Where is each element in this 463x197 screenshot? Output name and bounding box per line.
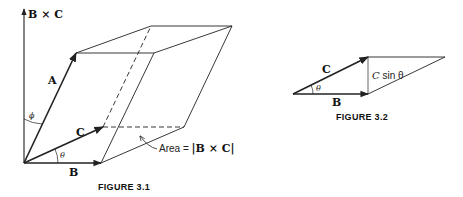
figure-3-2-labels: C B θ C sin θ FIGURE 3.2 xyxy=(316,63,404,122)
area-expr: |B × C| xyxy=(192,142,235,155)
height-label: C sin θ xyxy=(372,70,404,81)
c-label: C xyxy=(322,63,331,76)
edge xyxy=(154,26,232,53)
figure-3-2-caption: FIGURE 3.2 xyxy=(336,112,388,122)
edge xyxy=(101,53,154,163)
theta-arc xyxy=(311,85,313,94)
phi-label: ϕ xyxy=(29,111,35,120)
area-prefix: Area = xyxy=(159,143,192,154)
vector-a xyxy=(24,53,76,163)
a-label: A xyxy=(47,74,57,87)
b-label: B xyxy=(69,166,78,179)
theta-label: θ xyxy=(316,84,321,93)
edge xyxy=(184,26,232,127)
c-label: C xyxy=(76,126,85,139)
theta-arc xyxy=(55,149,58,163)
bxc-label: B × C xyxy=(28,8,63,21)
figure-3-1-caption: FIGURE 3.1 xyxy=(98,182,150,192)
area-label: Area = |B × C| xyxy=(159,142,234,155)
diagram-canvas: B × C A C B ϕ θ Area = |B × C| FIGURE 3.… xyxy=(0,0,463,197)
edge xyxy=(76,26,151,53)
b-label: B xyxy=(332,96,341,109)
height-sin: sin θ xyxy=(380,70,404,81)
theta-label: θ xyxy=(60,151,65,160)
